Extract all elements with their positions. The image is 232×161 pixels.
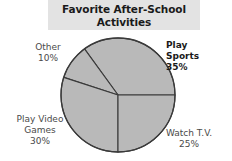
slice-label-play-sports-name-2: Sports [166, 51, 228, 62]
slice-label-watch-tv-value: 25% [148, 139, 230, 150]
slice-label-play-video-games-name-2: Games [2, 125, 78, 136]
slice-label-play-video-games: Play Video Games 30% [2, 114, 78, 147]
slice-label-other-name: Other [35, 42, 61, 52]
slice-label-play-sports: Play Sports 35% [166, 40, 228, 73]
slice-label-play-video-games-value: 30% [2, 136, 78, 147]
slice-label-watch-tv-name: Watch T.V. [166, 128, 212, 138]
slice-label-watch-tv: Watch T.V. 25% [148, 128, 230, 150]
pie-chart-figure: Favorite After-School Activities Other 1… [0, 0, 232, 161]
slice-label-play-video-games-name-1: Play Video [17, 114, 64, 124]
slice-label-other-value: 10% [22, 53, 74, 64]
slice-label-play-sports-name-1: Play [166, 40, 187, 50]
slice-label-play-sports-value: 35% [166, 62, 228, 73]
slice-label-other: Other 10% [22, 42, 74, 64]
